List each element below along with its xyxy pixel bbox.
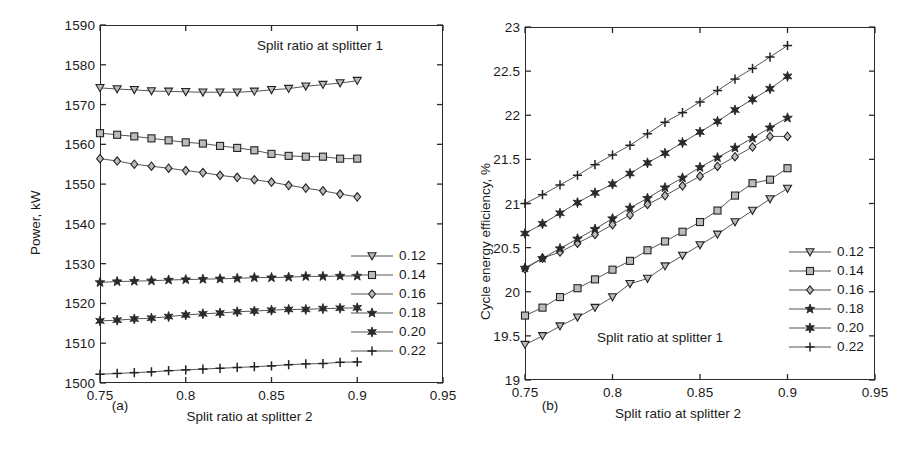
x-tick-label: 0.8: [176, 388, 195, 403]
legend-marker-square-icon: [350, 267, 394, 283]
legend-item-0-16[interactable]: 0.16: [788, 280, 864, 299]
x-axis-title-a: Split ratio at splitter 2: [186, 409, 312, 424]
legend-b[interactable]: 0.120.140.160.180.200.22: [788, 242, 864, 356]
legend-marker-pentagram-icon: [788, 301, 832, 317]
y-tick-label: 1550: [35, 177, 95, 192]
y-tick-label: 1560: [35, 137, 95, 152]
legend-item-0-14[interactable]: 0.14: [788, 261, 864, 280]
legend-marker-diamond-icon: [350, 286, 394, 302]
legend-item-0-12[interactable]: 0.12: [788, 242, 864, 261]
legend-label: 0.12: [399, 248, 426, 263]
legend-item-0-14[interactable]: 0.14: [350, 265, 426, 284]
legend-label: 0.22: [837, 339, 864, 354]
y-tick-label: 1510: [35, 336, 95, 351]
legend-label: 0.22: [399, 343, 426, 358]
legend-marker-hexagram-icon: [788, 320, 832, 336]
legend-item-0-22[interactable]: 0.22: [350, 341, 426, 360]
x-tick-label: 0.9: [778, 385, 797, 400]
legend-label: 0.14: [837, 263, 864, 278]
plot-annotation-a: Split ratio at splitter 1: [257, 38, 383, 53]
legend-label: 0.16: [837, 282, 864, 297]
legend-item-0-20[interactable]: 0.20: [788, 318, 864, 337]
chart-panel-a: 1500151015201530154015501560157015801590…: [0, 0, 460, 451]
x-tick-label: 0.8: [603, 385, 622, 400]
legend-marker-plus-icon: [350, 343, 394, 359]
legend-marker-diamond-icon: [788, 282, 832, 298]
y-tick-label: 1530: [35, 256, 95, 271]
legend-label: 0.18: [399, 305, 426, 320]
legend-item-0-20[interactable]: 0.20: [350, 322, 426, 341]
y-tick-label: 1520: [35, 296, 95, 311]
legend-marker-square-icon: [788, 263, 832, 279]
legend-label: 0.14: [399, 267, 426, 282]
legend-marker-hexagram-icon: [350, 324, 394, 340]
chart-panel-b: 1919.52020.52121.52222.5230.750.80.850.9…: [460, 0, 921, 451]
legend-label: 0.16: [399, 286, 426, 301]
x-tick-label: 0.75: [512, 385, 539, 400]
legend-marker-triangle-down-icon: [350, 248, 394, 264]
y-axis-title-b: Cycle energy efficiency, %: [478, 163, 493, 320]
legend-item-0-16[interactable]: 0.16: [350, 284, 426, 303]
y-axis-title-a: Power, kW: [28, 190, 43, 255]
legend-item-0-22[interactable]: 0.22: [788, 337, 864, 356]
x-tick-label: 0.85: [687, 385, 714, 400]
figure-container: 1500151015201530154015501560157015801590…: [0, 0, 921, 451]
legend-marker-pentagram-icon: [350, 305, 394, 321]
plot-annotation-b: Split ratio at splitter 1: [597, 330, 723, 345]
legend-marker-triangle-down-icon: [788, 244, 832, 260]
x-axis-title-b: Split ratio at splitter 2: [615, 406, 741, 421]
legend-label: 0.18: [837, 301, 864, 316]
x-tick-label: 0.95: [862, 385, 889, 400]
y-tick-label: 19.5: [460, 328, 520, 343]
y-tick-label: 1580: [35, 57, 95, 72]
y-tick-label: 22: [460, 108, 520, 123]
legend-item-0-18[interactable]: 0.18: [350, 303, 426, 322]
panel-caption-a: (a): [112, 398, 129, 413]
legend-label: 0.12: [837, 244, 864, 259]
x-tick-label: 0.9: [348, 388, 367, 403]
legend-marker-plus-icon: [788, 339, 832, 355]
legend-label: 0.20: [399, 324, 426, 339]
y-tick-label: 1540: [35, 216, 95, 231]
x-tick-label: 0.95: [430, 388, 457, 403]
x-tick-label: 0.85: [258, 388, 285, 403]
legend-a[interactable]: 0.120.140.160.180.200.22: [350, 246, 426, 360]
y-tick-label: 23: [460, 20, 520, 35]
legend-label: 0.20: [837, 320, 864, 335]
y-tick-label: 22.5: [460, 64, 520, 79]
legend-item-0-18[interactable]: 0.18: [788, 299, 864, 318]
x-tick-label: 0.75: [87, 388, 114, 403]
legend-item-0-12[interactable]: 0.12: [350, 246, 426, 265]
panel-caption-b: (b): [542, 398, 559, 413]
y-tick-label: 1570: [35, 97, 95, 112]
y-tick-label: 1590: [35, 18, 95, 33]
